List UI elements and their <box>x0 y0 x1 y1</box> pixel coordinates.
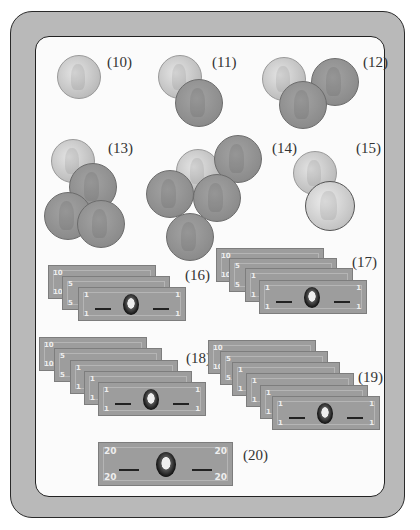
denomination: 1 <box>175 291 180 299</box>
denomination: 1 <box>238 385 243 393</box>
problem-label: (15) <box>356 140 381 157</box>
denomination: 20 <box>214 472 227 482</box>
penny-coin-icon <box>166 213 214 261</box>
denomination: 1 <box>266 408 271 416</box>
problem-label: (10) <box>107 54 132 71</box>
problem-label: (11) <box>212 54 236 71</box>
portrait-icon <box>156 452 176 477</box>
bar <box>115 403 131 405</box>
denomination: 1 <box>84 310 89 318</box>
penny-coin-icon <box>77 200 125 248</box>
denomination: 1 <box>265 284 270 292</box>
bar <box>192 469 212 471</box>
denomination: 20 <box>214 446 227 456</box>
nickel-coin-icon <box>305 181 355 231</box>
problem-label: (13) <box>108 140 133 157</box>
denomination: 1 <box>278 400 283 408</box>
denomination: 1 <box>266 389 271 397</box>
problem-label: (12) <box>363 54 388 71</box>
denomination: 10 <box>44 341 54 349</box>
penny-coin-icon <box>146 170 194 218</box>
denomination: 10 <box>44 360 54 368</box>
bar <box>95 308 111 310</box>
denomination: 1 <box>84 291 89 299</box>
bar <box>334 301 350 303</box>
denomination: 1 <box>356 284 361 292</box>
denomination: 5 <box>226 374 231 382</box>
bar <box>153 308 169 310</box>
problem-label: (16) <box>185 267 210 284</box>
denomination: 20 <box>104 446 117 456</box>
denomination: 1 <box>369 419 374 427</box>
penny-coin-icon <box>175 79 223 127</box>
denomination: 1 <box>90 375 95 383</box>
denomination: 1 <box>278 419 283 427</box>
denomination: 1 <box>175 310 180 318</box>
denomination: 20 <box>104 472 117 482</box>
portrait-icon <box>123 294 139 315</box>
denomination: 1 <box>104 405 109 413</box>
denomination: 1 <box>195 405 200 413</box>
dime-coin-icon <box>57 55 101 99</box>
denomination: 1 <box>251 272 256 280</box>
denomination: 5 <box>60 371 65 379</box>
denomination: 5 <box>68 280 73 288</box>
denomination: 1 <box>252 396 257 404</box>
denomination: 1 <box>252 377 257 385</box>
one-dollar-bill-icon: 1 1 1 1 <box>78 287 186 321</box>
denomination: 5 <box>235 262 240 270</box>
one-dollar-bill-icon: 1 1 1 1 <box>272 396 380 430</box>
penny-coin-icon <box>279 81 327 129</box>
denomination: 1 <box>251 291 256 299</box>
problem-label: (19) <box>358 369 383 386</box>
portrait-icon <box>317 403 333 424</box>
denomination: 5 <box>235 281 240 289</box>
denomination: 1 <box>238 366 243 374</box>
one-dollar-bill-icon: 1 1 1 1 <box>98 382 206 416</box>
problem-label: (20) <box>243 447 268 464</box>
denomination: 1 <box>369 400 374 408</box>
denomination: 1 <box>104 386 109 394</box>
denomination: 1 <box>90 394 95 402</box>
denomination: 1 <box>76 383 81 391</box>
twenty-dollar-bill-icon: 20 20 20 20 <box>98 442 233 486</box>
denomination: 5 <box>60 352 65 360</box>
denomination: 1 <box>195 386 200 394</box>
bar <box>173 403 189 405</box>
problem-label: (14) <box>272 140 297 157</box>
portrait-icon <box>304 287 320 308</box>
portrait-icon <box>143 389 159 410</box>
denomination: 5 <box>68 299 73 307</box>
bar <box>347 417 363 419</box>
denomination: 5 <box>226 355 231 363</box>
one-dollar-bill-icon: 1 1 1 1 <box>259 280 367 314</box>
problem-label: (17) <box>352 254 377 271</box>
denomination: 1 <box>76 364 81 372</box>
denomination: 1 <box>265 303 270 311</box>
bar <box>276 301 292 303</box>
bar <box>119 469 139 471</box>
denomination: 1 <box>356 303 361 311</box>
bar <box>289 417 305 419</box>
